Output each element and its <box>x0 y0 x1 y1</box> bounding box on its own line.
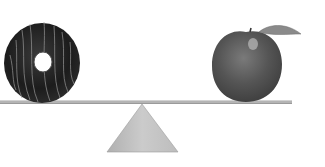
apple <box>212 26 301 103</box>
fulcrum-triangle <box>107 104 178 152</box>
donut <box>4 22 80 103</box>
apple-leaf <box>259 26 301 35</box>
seesaw-illustration <box>0 0 325 167</box>
